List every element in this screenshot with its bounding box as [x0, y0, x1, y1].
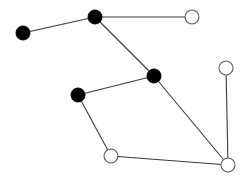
node-A-filled	[16, 26, 30, 40]
node-F-filled	[71, 88, 85, 102]
edge-G-H	[111, 156, 228, 165]
edge-B-D	[95, 17, 154, 76]
edge-F-G	[78, 95, 111, 156]
edge-D-H	[154, 76, 228, 165]
edge-D-F	[78, 76, 154, 95]
edge-E-H	[226, 68, 228, 165]
node-G-open	[104, 149, 118, 163]
edge-layer	[23, 17, 228, 165]
node-D-filled	[147, 69, 161, 83]
graph-diagram	[0, 0, 248, 182]
node-B-filled	[88, 10, 102, 24]
node-E-open	[219, 61, 233, 75]
node-H-open	[221, 158, 235, 172]
node-layer	[16, 10, 235, 172]
edge-A-B	[23, 17, 95, 33]
node-C-open	[185, 10, 199, 24]
